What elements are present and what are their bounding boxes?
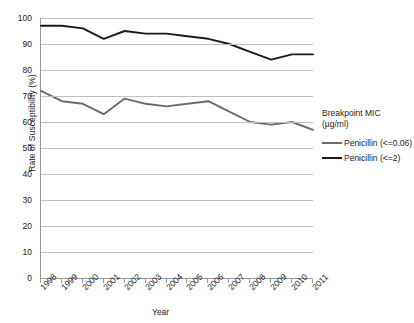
y-axis-tick-label: 70	[23, 91, 32, 101]
y-axis-tick-label: 50	[23, 143, 32, 153]
gridline	[41, 122, 313, 123]
gridline	[41, 252, 313, 253]
gridline	[41, 200, 313, 201]
gridline	[41, 96, 313, 97]
gridline	[41, 148, 313, 149]
plot-area	[40, 18, 313, 278]
legend: Breakpoint MIC (µg/ml) Penicillin (<=0.0…	[322, 108, 414, 168]
y-axis-tick-label: 80	[23, 65, 32, 75]
y-axis-tick-label: 30	[23, 195, 32, 205]
legend-color-swatch	[322, 157, 342, 159]
legend-color-swatch	[322, 142, 342, 144]
y-axis-tick-label: 100	[18, 13, 32, 23]
y-axis-tick-label: 60	[23, 117, 32, 127]
gridline	[41, 174, 313, 175]
gridline	[41, 44, 313, 45]
y-axis-tick-label: 20	[23, 221, 32, 231]
gridline	[41, 70, 313, 71]
legend-title: Breakpoint MIC (µg/ml)	[322, 108, 414, 130]
legend-label: Penicillin (<=2)	[344, 153, 400, 163]
y-axis-tick-label: 40	[23, 169, 32, 179]
legend-item[interactable]: Penicillin (<=2)	[322, 153, 414, 163]
y-axis-tick-label: 90	[23, 39, 32, 49]
y-axis-tick-labels: 0102030405060708090100	[0, 0, 34, 323]
legend-items: Penicillin (<=0.06)Penicillin (<=2)	[322, 138, 414, 163]
x-axis-title: Year	[152, 307, 169, 317]
legend-title-line-2: (µg/ml)	[322, 119, 414, 130]
y-axis-tick-label: 0	[27, 273, 32, 283]
series-line	[41, 26, 313, 60]
gridline	[41, 226, 313, 227]
legend-item[interactable]: Penicillin (<=0.06)	[322, 138, 414, 148]
legend-label: Penicillin (<=0.06)	[344, 138, 412, 148]
chart-figure: Rate of Susceptibility (%) 0102030405060…	[0, 0, 414, 323]
y-axis-tick-label: 10	[23, 247, 32, 257]
gridline	[41, 18, 313, 19]
legend-title-line-1: Breakpoint MIC	[322, 108, 414, 119]
